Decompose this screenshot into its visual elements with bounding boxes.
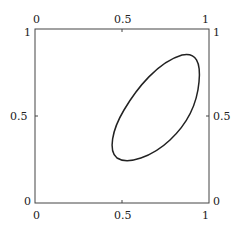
y-tick-right-0.5: 0.5 bbox=[213, 111, 231, 122]
x-tick-top-0: 0 bbox=[33, 14, 40, 25]
x-tick-bottom-0: 0 bbox=[33, 210, 40, 221]
plot-area bbox=[0, 0, 239, 238]
y-tick-left-1: 1 bbox=[24, 27, 31, 38]
x-tick-top-1: 1 bbox=[202, 14, 209, 25]
x-tick-top-0.5: 0.5 bbox=[114, 14, 132, 25]
x-tick-bottom-1: 1 bbox=[202, 210, 209, 221]
y-tick-right-1: 1 bbox=[213, 27, 220, 38]
y-tick-left-0: 0 bbox=[24, 196, 31, 207]
y-tick-left-0.5: 0.5 bbox=[10, 111, 28, 122]
ellipse-curve bbox=[112, 54, 199, 160]
y-tick-right-0: 0 bbox=[213, 196, 220, 207]
x-tick-bottom-0.5: 0.5 bbox=[114, 210, 132, 221]
